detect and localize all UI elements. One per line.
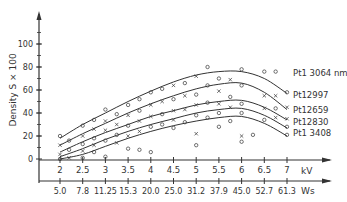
series-label: Pt12997: [293, 90, 329, 100]
circle-marker: [251, 133, 254, 136]
circle-marker: [183, 81, 186, 84]
cross-marker: [104, 119, 107, 122]
cross-marker: [81, 134, 84, 137]
y-axis-label: Density S × 100: [8, 53, 18, 127]
x-tick-label-kv: 2: [57, 165, 62, 175]
y-tick-label: 100: [18, 40, 33, 49]
circle-marker: [172, 126, 175, 129]
circle-marker: [217, 125, 220, 128]
circle-marker: [206, 65, 209, 68]
circle-marker: [229, 95, 232, 98]
series-label: Pt1 3064 nm: [293, 68, 347, 78]
circle-marker: [149, 125, 152, 128]
cross-marker: [126, 114, 129, 117]
circle-marker: [274, 107, 277, 110]
x-tick-label-ws: 37.9: [210, 187, 228, 196]
x-axis-arrow-icon: [322, 158, 332, 163]
x-axis-label-kv: kV: [301, 166, 313, 176]
circle-marker: [263, 70, 266, 73]
y-tick-label: 60: [23, 86, 33, 95]
x-tick-label-kv: 3: [103, 165, 108, 175]
x-tick-label-kv: 6.5: [258, 165, 272, 175]
circle-marker: [172, 98, 175, 101]
x-tick-label-ws: 31.2: [187, 187, 205, 196]
circle-marker: [240, 84, 243, 87]
cross-marker: [115, 123, 118, 126]
cross-marker: [183, 108, 186, 111]
cross-marker: [274, 116, 277, 119]
circle-marker: [67, 148, 70, 151]
x-tick-label-ws: 11.25: [94, 187, 117, 196]
circle-marker: [217, 77, 220, 80]
x-tick-label-kv: 3.5: [121, 165, 135, 175]
x-tick-label-kv: 4.5: [167, 165, 181, 175]
x-tick-label-ws: 5.0: [54, 187, 67, 196]
cross-marker: [263, 94, 266, 97]
cross-marker: [126, 134, 129, 137]
circle-marker: [240, 68, 243, 71]
circle-marker: [229, 119, 232, 122]
x-tick-label-kv: 7: [284, 165, 289, 175]
x-axis-ws-arrow-icon: [322, 179, 332, 184]
axes: 02040608010025.02.57.8311.253.515.3420.0…: [18, 11, 332, 196]
circle-marker: [104, 108, 107, 111]
circle-marker: [160, 123, 163, 126]
circle-marker: [160, 87, 163, 90]
cross-marker: [160, 100, 163, 103]
circle-marker: [126, 103, 129, 106]
circle-marker: [217, 111, 220, 114]
x-tick-label-kv: 2.5: [76, 165, 90, 175]
x-axis-label-ws: Ws: [301, 186, 315, 196]
circle-marker: [138, 148, 141, 151]
series-label: Pt12659: [293, 105, 329, 115]
x-tick-label-kv: 5.5: [212, 165, 226, 175]
cross-marker: [138, 130, 141, 133]
cross-marker: [229, 78, 232, 81]
data-points: [58, 65, 288, 160]
circle-marker: [195, 93, 198, 96]
x-tick-label-kv: 5: [193, 165, 198, 175]
series-label: Pt12830: [293, 117, 329, 127]
density-vs-voltage-chart: 02040608010025.02.57.8311.253.515.3420.0…: [0, 0, 347, 202]
series-curve: [60, 83, 287, 146]
x-tick-label-ws: 52.7: [255, 187, 273, 196]
circle-marker: [81, 142, 84, 145]
series-curve: [60, 116, 287, 159]
cross-marker: [274, 94, 277, 97]
circle-marker: [263, 118, 266, 121]
circle-marker: [115, 112, 118, 115]
circle-marker: [195, 114, 198, 117]
circle-marker: [138, 98, 141, 101]
x-tick-label-ws: 45.0: [233, 187, 251, 196]
cross-marker: [217, 102, 220, 105]
y-tick-label: 20: [23, 132, 33, 141]
fitted-curves: [60, 71, 287, 159]
y-tick-label: 40: [23, 109, 33, 118]
cross-marker: [240, 134, 243, 137]
series-label: Pt1 3408: [293, 128, 331, 138]
circle-marker: [195, 144, 198, 147]
cross-marker: [81, 149, 84, 152]
cross-marker: [104, 129, 107, 132]
series-labels: Pt1 3064 nmPt12997Pt12659Pt12830Pt1 3408: [293, 68, 347, 138]
x-tick-label-ws: 20.0: [142, 187, 160, 196]
circle-marker: [149, 150, 152, 153]
cross-marker: [217, 89, 220, 92]
x-tick-label-kv: 4: [148, 165, 153, 175]
circle-marker: [240, 140, 243, 143]
circle-marker: [126, 147, 129, 150]
y-tick-label: 0: [28, 155, 33, 164]
y-tick-label: 80: [23, 63, 33, 72]
cross-marker: [183, 94, 186, 97]
cross-marker: [172, 84, 175, 87]
circle-marker: [138, 109, 141, 112]
cross-marker: [58, 144, 61, 147]
cross-marker: [195, 132, 198, 135]
x-tick-label-ws: 15.3: [119, 187, 137, 196]
circle-marker: [58, 134, 61, 137]
y-axis-arrow-icon: [37, 11, 42, 20]
series-curve: [60, 108, 287, 157]
x-tick-label-ws: 61.3: [278, 187, 296, 196]
cross-marker: [285, 106, 288, 109]
x-tick-label-ws: 25.0: [165, 187, 183, 196]
